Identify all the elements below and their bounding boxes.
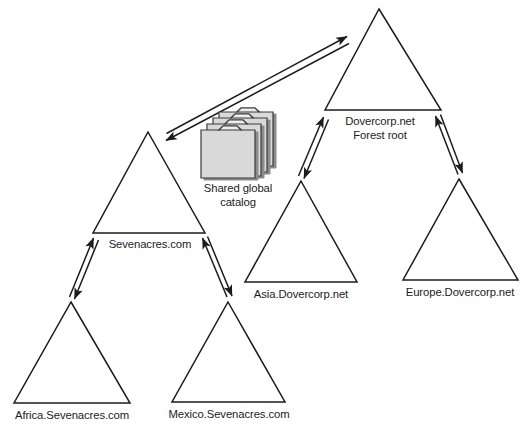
triangle-sevenacres xyxy=(93,132,205,233)
domain-label-asia-line1: Asia.Dovercorp.net xyxy=(254,288,348,302)
domain-label-sevenacres-line1: Sevenacres.com xyxy=(109,238,192,252)
triangle-dovercorp xyxy=(325,9,441,110)
shared-global-catalog-label: Shared global catalog xyxy=(204,182,272,209)
domain-label-sevenacres: Sevenacres.com xyxy=(109,238,192,252)
trust-arrow-asia-dovercorp xyxy=(299,117,329,179)
folder-stack-icon xyxy=(201,108,276,180)
trust-arrow-europe-dovercorp xyxy=(436,115,463,175)
forest-trust-diagram: Dovercorp (long diagonal) --> Dovercorp … xyxy=(0,0,529,435)
domain-label-europe-line1: Europe.Dovercorp.net xyxy=(406,286,515,300)
domain-label-dovercorp-line2: Forest root xyxy=(345,129,415,143)
domain-label-europe: Europe.Dovercorp.net xyxy=(406,286,515,300)
trust-arrow-africa-sevenacres xyxy=(70,238,99,299)
domain-label-mexico-line1: Mexico.Sevenacres.com xyxy=(169,408,290,422)
domain-label-dovercorp-line1: Dovercorp.net xyxy=(345,115,415,129)
triangle-africa xyxy=(14,302,130,403)
triangle-mexico xyxy=(172,302,285,402)
folder-1 xyxy=(201,126,258,180)
diagram-canvas: Dovercorp (long diagonal) --> Dovercorp … xyxy=(0,0,529,435)
domain-label-mexico: Mexico.Sevenacres.com xyxy=(169,408,290,422)
domain-label-dovercorp: Dovercorp.net Forest root xyxy=(345,115,415,142)
domain-label-asia: Asia.Dovercorp.net xyxy=(254,288,348,302)
trust-arrow-mexico-sevenacres xyxy=(203,237,233,298)
triangle-europe xyxy=(403,179,518,280)
domain-label-africa: Africa.Sevenacres.com xyxy=(15,409,129,423)
domain-label-africa-line1: Africa.Sevenacres.com xyxy=(15,409,129,423)
shared-global-catalog-label-line1: Shared global xyxy=(204,182,272,196)
shared-global-catalog-label-line2: catalog xyxy=(204,196,272,210)
